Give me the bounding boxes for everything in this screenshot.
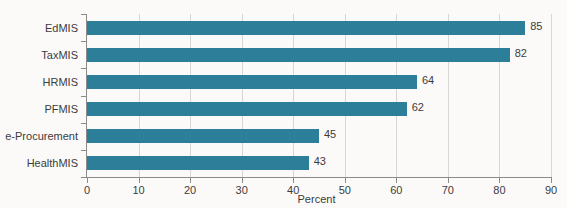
- y-axis-category-label: TaxMIS: [0, 48, 78, 62]
- bar-row: 82: [87, 48, 551, 62]
- x-axis-tick: [551, 178, 552, 183]
- x-axis-tick: [87, 178, 88, 183]
- bar[interactable]: [87, 102, 407, 116]
- y-axis-tick: [81, 150, 86, 151]
- y-axis-category-label: PFMIS: [0, 102, 78, 116]
- y-axis-tick: [81, 68, 86, 69]
- x-axis-tick: [396, 178, 397, 183]
- x-axis-line: [86, 177, 552, 178]
- bar-row: 43: [87, 156, 551, 170]
- x-axis-tick: [139, 178, 140, 183]
- bar-value-label: 45: [324, 127, 336, 141]
- bar[interactable]: [87, 156, 309, 170]
- bar-value-label: 62: [412, 100, 424, 114]
- y-axis-tick: [81, 14, 86, 15]
- y-axis-category-label: HRMIS: [0, 75, 78, 89]
- bar[interactable]: [87, 75, 417, 89]
- gridline: [551, 14, 552, 177]
- x-axis-tick: [499, 178, 500, 183]
- bar-value-label: 82: [515, 46, 527, 60]
- x-axis-title: Percent: [0, 193, 567, 205]
- y-axis-category-label: HealthMIS: [0, 156, 78, 170]
- y-axis-category-label: EdMIS: [0, 21, 78, 35]
- bar[interactable]: [87, 21, 525, 35]
- x-axis-tick: [293, 178, 294, 183]
- bar-value-label: 64: [422, 73, 434, 87]
- bar-row: 62: [87, 102, 551, 116]
- x-axis-tick: [345, 178, 346, 183]
- bar[interactable]: [87, 48, 510, 62]
- y-axis-tick: [81, 41, 86, 42]
- bar-row: 85: [87, 21, 551, 35]
- y-axis-category-label: e-Procurement: [0, 129, 78, 143]
- y-axis-tick: [81, 177, 86, 178]
- bar-chart: EdMISTaxMISHRMISPFMISe-ProcurementHealth…: [0, 0, 567, 208]
- bar-row: 45: [87, 129, 551, 143]
- bar-row: 64: [87, 75, 551, 89]
- bar-value-label: 43: [314, 154, 326, 168]
- x-axis-tick: [448, 178, 449, 183]
- x-axis-title-text: Percent: [298, 193, 336, 205]
- plot-area: 858264624543: [87, 14, 551, 177]
- y-axis-tick: [81, 96, 86, 97]
- x-axis-tick: [242, 178, 243, 183]
- y-axis-tick: [81, 123, 86, 124]
- x-axis-tick: [190, 178, 191, 183]
- bar[interactable]: [87, 129, 319, 143]
- bar-value-label: 85: [530, 19, 542, 33]
- chart-title: [0, 0, 567, 1]
